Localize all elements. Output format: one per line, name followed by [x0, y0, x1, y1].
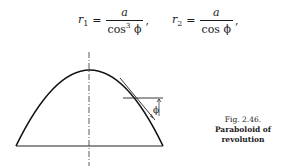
tangent-line: [120, 78, 155, 120]
angle-phi-label: ϕ: [153, 105, 159, 115]
caption-number: Fig. 2.46.: [196, 115, 290, 125]
caption-title: Paraboloid of revolution: [196, 125, 290, 145]
parabola-curve: [16, 70, 163, 146]
figure-caption: Fig. 2.46. Paraboloid of revolution: [196, 115, 290, 145]
